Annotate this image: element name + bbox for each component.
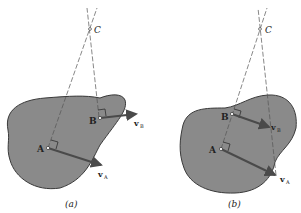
label-va: v bbox=[279, 174, 285, 184]
point-b bbox=[98, 116, 101, 119]
label-va-sub: A bbox=[285, 179, 290, 185]
label-b: B bbox=[89, 116, 97, 126]
label-c: C bbox=[94, 25, 101, 35]
label-vb-sub: B bbox=[140, 123, 144, 129]
caption-b: (b) bbox=[228, 199, 241, 209]
point-b bbox=[230, 112, 233, 115]
point-a bbox=[46, 146, 49, 149]
point-c bbox=[259, 28, 262, 31]
figure-b: A B C v A v B (b) bbox=[180, 8, 296, 209]
point-c bbox=[89, 28, 92, 31]
label-a: A bbox=[208, 145, 217, 155]
label-vb-sub: B bbox=[277, 127, 281, 133]
figure-a: A B C v A v B (a) bbox=[7, 8, 144, 209]
point-a bbox=[219, 147, 222, 150]
label-va: v bbox=[97, 169, 103, 179]
rigid-body-a bbox=[7, 95, 125, 189]
diagram-canvas: A B C v A v B (a) A B C v A v B (b) bbox=[0, 0, 301, 213]
label-c: C bbox=[265, 25, 272, 35]
label-vb: v bbox=[270, 122, 276, 132]
label-b: B bbox=[221, 112, 229, 122]
label-va-sub: A bbox=[103, 174, 108, 180]
label-vb: v bbox=[133, 118, 139, 128]
caption-a: (a) bbox=[65, 199, 78, 209]
rigid-body-b bbox=[180, 95, 296, 193]
label-a: A bbox=[36, 144, 45, 154]
